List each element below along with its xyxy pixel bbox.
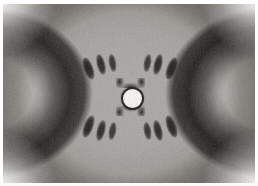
plate-margin-top [0, 0, 258, 4]
plate-margin [0, 0, 258, 186]
plate-margin-bottom [0, 183, 258, 186]
diffraction-photograph: Photo 51 DNA fibre diffraction pattern b… [0, 0, 258, 186]
